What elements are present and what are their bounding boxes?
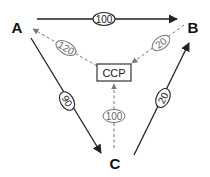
edge-c-to-b: 20 [134, 43, 189, 155]
edge-ccp-to-a: 120 [33, 29, 97, 66]
edge-a-to-b: 100 [37, 13, 177, 26]
edge-label-a-b: 100 [96, 14, 113, 25]
edge-c-to-ccp: 100 [103, 84, 125, 148]
node-ccp-label: CCP [102, 67, 125, 79]
flow-diagram: 100 90 20 120 20 100 [0, 0, 210, 177]
node-a-label: A [12, 19, 23, 36]
node-c-label: C [110, 155, 121, 172]
edge-a-to-c: 90 [31, 38, 101, 153]
edge-label-c-ccp: 100 [106, 111, 123, 122]
node-b-label: B [188, 19, 199, 36]
edge-b-to-ccp: 20 [132, 25, 184, 63]
node-ccp: CCP [97, 64, 131, 81]
